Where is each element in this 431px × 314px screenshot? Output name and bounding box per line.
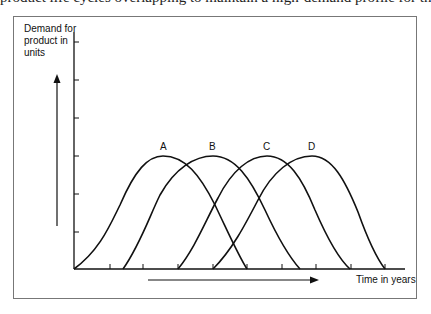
x-ticks	[110, 264, 385, 269]
curve-b	[123, 156, 300, 269]
curve-label-a: A	[160, 141, 167, 153]
x-axis-label: Time in years	[356, 274, 416, 286]
up-arrow-icon	[54, 74, 61, 83]
curve-c	[178, 156, 350, 269]
y-ticks	[74, 42, 79, 232]
curve-label-b: B	[209, 141, 216, 153]
y-label-line-1: Demand for	[24, 23, 76, 35]
right-arrow-icon	[310, 277, 319, 284]
curve-d	[213, 156, 385, 269]
curve-a	[74, 156, 247, 269]
y-axis-label: Demand for product in units	[24, 23, 76, 59]
y-label-line-2: product in	[24, 35, 76, 47]
y-label-line-3: units	[24, 47, 76, 59]
curve-label-c: C	[263, 141, 270, 153]
curve-label-d: D	[308, 141, 315, 153]
